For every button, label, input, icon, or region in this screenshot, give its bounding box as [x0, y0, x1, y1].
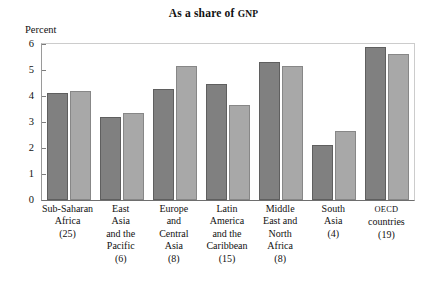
x-category-label-line: and the: [201, 228, 252, 240]
bar: [259, 62, 280, 200]
bar: [282, 66, 303, 200]
x-category-label-line: and: [148, 215, 199, 227]
x-category-label-line: Latin: [201, 203, 252, 215]
bar-group: [308, 44, 361, 200]
x-category-label-line: Asia: [308, 215, 359, 227]
y-axis-unit-label: Percent: [25, 24, 57, 35]
bar-group: [148, 44, 201, 200]
y-tick-label: 4: [29, 91, 42, 102]
x-category-label-line: Sub-Saharan: [42, 203, 93, 215]
x-category-label-line: East and: [255, 215, 306, 227]
x-category-label-line: and the: [95, 228, 146, 240]
x-category-label-line: Central: [148, 228, 199, 240]
x-category-label: Sub-SaharanAfrica(25): [41, 203, 94, 281]
x-category-label: MiddleEast andNorthAfrica(8): [254, 203, 307, 281]
y-tick-label: 1: [29, 169, 42, 180]
bar-group: [201, 44, 254, 200]
x-category-label: OECDcountries(19): [360, 203, 413, 281]
x-category-label-line: America: [201, 215, 252, 227]
x-category-label: EastAsiaand thePacific(6): [94, 203, 147, 281]
y-tick-label: 2: [29, 143, 42, 154]
x-category-label-line: Caribbean: [201, 240, 252, 252]
chart-title: As a share of GNP: [0, 7, 427, 19]
bar: [206, 84, 227, 200]
bar: [70, 91, 91, 200]
x-category-label-line: (15): [201, 253, 252, 265]
x-category-label-line: (8): [255, 253, 306, 265]
x-category-label-line: (6): [95, 253, 146, 265]
x-category-label-line: (19): [361, 229, 412, 241]
x-category-label-line: (4): [308, 228, 359, 240]
x-category-label-line: countries: [361, 216, 412, 228]
bar: [365, 47, 386, 200]
plot-area: 6543210: [41, 43, 415, 201]
x-category-label-line: East: [95, 203, 146, 215]
bar: [312, 145, 333, 200]
x-category-label-line: Europe: [148, 203, 199, 215]
bar-groups: [42, 44, 414, 200]
x-category-label: LatinAmericaand theCaribbean(15): [200, 203, 253, 281]
chart-title-smallcaps: GNP: [238, 9, 259, 19]
bar: [176, 66, 197, 200]
x-category-label-line: South: [308, 203, 359, 215]
y-tick-label: 0: [29, 195, 42, 206]
y-tick-label: 3: [29, 117, 42, 128]
x-category-label: EuropeandCentralAsia(8): [147, 203, 200, 281]
bar: [388, 54, 409, 200]
x-category-label-line: Pacific: [95, 240, 146, 252]
bar-group: [361, 44, 414, 200]
y-tick-label: 6: [29, 39, 42, 50]
y-tick-label: 5: [29, 65, 42, 76]
x-category-label-line: Asia: [148, 240, 199, 252]
bar-group: [255, 44, 308, 200]
x-category-label-line: (8): [148, 253, 199, 265]
x-axis-category-labels: Sub-SaharanAfrica(25)EastAsiaand thePaci…: [41, 203, 413, 281]
chart-figure: As a share of GNP Percent 6543210 Sub-Sa…: [0, 0, 427, 284]
x-category-label-line: North: [255, 228, 306, 240]
bar: [229, 105, 250, 200]
x-category-label-smallcaps: OECD: [375, 205, 399, 214]
bar: [100, 117, 121, 200]
x-category-label-line: OECD: [361, 203, 412, 216]
x-category-label-line: Middle: [255, 203, 306, 215]
bar: [47, 93, 68, 200]
x-category-label-line: Africa: [42, 215, 93, 227]
bar: [153, 89, 174, 200]
bar-group: [42, 44, 95, 200]
bar: [335, 131, 356, 200]
x-category-label-line: Asia: [95, 215, 146, 227]
bar: [123, 113, 144, 200]
chart-title-main: As a share of: [169, 7, 238, 19]
x-category-label-line: Africa: [255, 240, 306, 252]
bar-group: [95, 44, 148, 200]
x-category-label: SouthAsia(4): [307, 203, 360, 281]
x-category-label-line: (25): [42, 228, 93, 240]
